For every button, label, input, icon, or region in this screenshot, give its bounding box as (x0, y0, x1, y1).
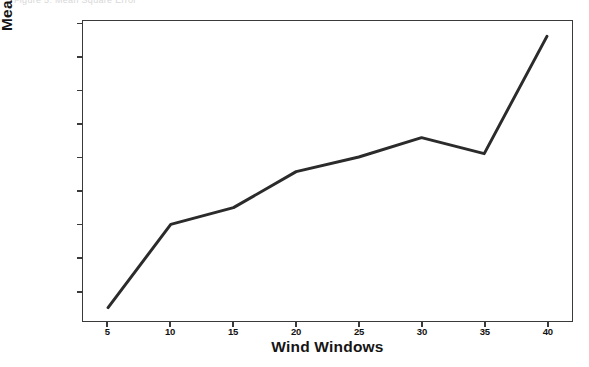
plot-area (82, 20, 573, 322)
x-tick-label: 25 (354, 326, 364, 337)
figure-caption: Figure 5. Mean Square Error (14, 0, 137, 5)
x-tick-mark (169, 322, 171, 327)
x-tick-mark (484, 322, 486, 327)
x-tick-mark (358, 322, 360, 327)
x-tick-mark (295, 322, 297, 327)
x-tick-mark (547, 322, 549, 327)
x-tick-label: 5 (105, 326, 110, 337)
x-tick-mark (106, 322, 108, 327)
x-tick-label: 40 (543, 326, 553, 337)
x-tick-label: 15 (228, 326, 238, 337)
figure-container: Figure 5. Mean Square Error Mean Square … (0, 0, 589, 367)
x-tick-label: 10 (165, 326, 175, 337)
x-tick-label: 30 (417, 326, 427, 337)
x-tick-mark (421, 322, 423, 327)
caption-strip: Figure 5. Mean Square Error (0, 0, 589, 11)
x-tick-mark (232, 322, 234, 327)
series-polyline (108, 36, 547, 307)
y-axis-title: Mean Square Error (0, 0, 16, 60)
series-line-chart (83, 21, 572, 321)
x-axis-title: Wind Windows (82, 338, 573, 356)
x-tick-label: 20 (291, 326, 301, 337)
x-tick-label: 35 (480, 326, 490, 337)
